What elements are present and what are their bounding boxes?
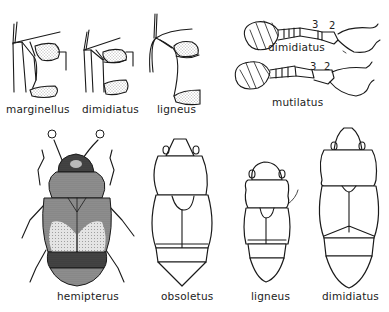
leg-detail-dimidiatus bbox=[84, 30, 133, 95]
beetle-dimidiatus bbox=[319, 128, 378, 288]
segment-number-2-dimidiatus: 2 bbox=[329, 20, 335, 31]
leg-detail-marginellus bbox=[13, 22, 66, 98]
label-dimidiatus-beetle: dimidiatus bbox=[322, 290, 379, 302]
label-mutilatus-antenna: mutilatus bbox=[272, 96, 323, 108]
segment-number-3-mutilatus: 3 bbox=[310, 61, 316, 72]
antenna-mutilatus bbox=[235, 62, 374, 96]
segment-number-2-mutilatus: 2 bbox=[324, 61, 330, 72]
beetle-hemipterus bbox=[22, 130, 134, 286]
label-ligneus-beetle: ligneus bbox=[251, 290, 290, 302]
label-ligneus-leg: ligneus bbox=[157, 103, 196, 115]
plate-drawings bbox=[0, 0, 389, 312]
beetle-obsoletus bbox=[152, 139, 212, 286]
illustration-plate: marginellus dimidiatus ligneus 3 2 dimid… bbox=[0, 0, 389, 312]
label-obsoletus: obsoletus bbox=[161, 290, 213, 302]
label-dimidiatus-antenna: dimidiatus bbox=[268, 41, 325, 53]
label-dimidiatus-leg: dimidiatus bbox=[82, 103, 139, 115]
label-hemipterus: hemipterus bbox=[57, 290, 119, 302]
label-marginellus: marginellus bbox=[6, 103, 70, 115]
beetle-ligneus bbox=[244, 162, 298, 282]
leg-detail-ligneus bbox=[150, 14, 200, 105]
segment-number-3-dimidiatus: 3 bbox=[312, 19, 318, 30]
